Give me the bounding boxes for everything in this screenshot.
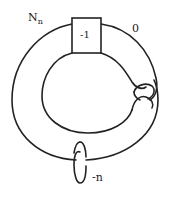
knot-name-subscript: n <box>38 17 43 26</box>
kirby-diagram: Nn 0 -1 -n <box>0 0 169 201</box>
meridian-ring-front <box>74 152 86 183</box>
knot-name-main: N <box>28 11 38 24</box>
clasp-tail <box>134 92 140 100</box>
meridian-framing-label: -n <box>92 172 103 183</box>
inner-strand-left <box>42 53 132 133</box>
clasp-loop-lower <box>132 97 153 110</box>
knot-name-label: Nn <box>28 12 43 23</box>
inner-strand-right <box>101 53 146 88</box>
outer-framing-label: 0 <box>132 23 139 34</box>
twist-box-label: -1 <box>80 30 90 40</box>
outer-strand-bottom-right <box>86 80 158 160</box>
meridian-ring-back <box>80 142 86 157</box>
outer-strand-left <box>12 24 76 160</box>
outer-strand-top-right <box>101 24 157 100</box>
